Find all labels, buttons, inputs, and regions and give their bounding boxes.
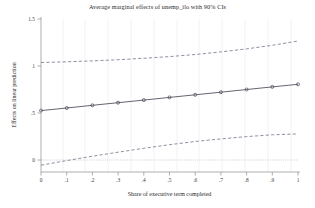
marginal-effect-line [41,84,298,110]
y-tick-label-1.5: 1.5 [28,16,35,22]
x-tick-label-9: .9 [270,177,274,183]
upper-ci-line [41,41,298,63]
lower-ci-line [41,134,298,165]
gridlines [63,19,291,172]
chart-figure: Average marginal effects of unemp_ilo wi… [0,0,315,208]
x-tick-label-3: .3 [116,177,120,183]
x-tick-label-10: 1 [297,177,300,183]
x-tick-label-8: .8 [245,177,249,183]
x-tick-label-2: .2 [90,177,94,183]
x-tick-label-7: .7 [219,177,223,183]
x-tick-label-4: .4 [142,177,146,183]
x-tick-label-0: 0 [40,177,43,183]
x-tick-label-1: .1 [65,177,69,183]
y-axis-title: Effects on linear prediction [11,62,17,127]
x-tick-label-6: .6 [193,177,197,183]
margins-plot: 1.5 1 .5 0 0 .1 .2 .3 .4 .5 .6 .7 .8 [0,0,315,208]
x-axis-ticks: 0 .1 .2 .3 .4 .5 .6 .7 .8 .9 1 [40,172,300,183]
y-tick-label-1: 1 [32,63,35,69]
x-axis-title: Share of executive term completed [128,191,212,197]
y-tick-label-0: 0 [32,157,35,163]
y-axis-ticks: 1.5 1 .5 0 [28,16,41,163]
x-tick-label-5: .5 [167,177,171,183]
y-tick-label-0.5: .5 [31,110,35,116]
